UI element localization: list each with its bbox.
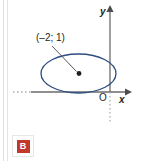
y-axis-arrowhead-icon (106, 5, 113, 12)
center-coordinate-label: (–2; 1) (36, 33, 65, 43)
answer-badge-letter[interactable]: B (17, 140, 30, 153)
figure-canvas: y x O (–2; 1) B (0, 0, 143, 161)
answer-badge-frame: B (12, 135, 34, 157)
center-point-marker (77, 71, 82, 76)
x-axis-arrowhead-icon (125, 88, 132, 95)
y-axis-label: y (100, 7, 106, 17)
center-leader-line (52, 46, 77, 72)
x-axis-label: x (119, 95, 125, 105)
origin-label: O (99, 93, 107, 103)
